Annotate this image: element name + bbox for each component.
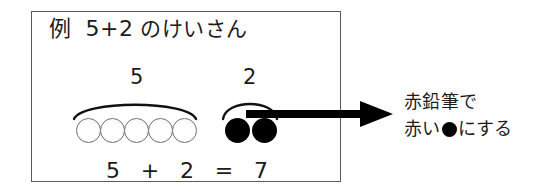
example-label: 例 xyxy=(49,18,72,40)
annotation-line-2-before: 赤い xyxy=(404,118,441,139)
right-arrow-icon xyxy=(246,100,394,128)
equation-equals-operator: = xyxy=(204,160,244,182)
open-circle xyxy=(124,118,149,143)
example-box: 例 5+2 のけいさん 5 2 5 xyxy=(31,11,341,182)
annotation-text: 赤鉛筆で 赤いにする xyxy=(404,88,513,142)
open-circle xyxy=(172,118,197,143)
equation-plus-operator: + xyxy=(130,160,170,182)
open-circle xyxy=(100,118,125,143)
equation-left-operand: 5 xyxy=(96,160,130,182)
equation-row: 5 + 2 = 7 xyxy=(32,160,342,182)
open-circle xyxy=(76,118,101,143)
group-caption-addend-one: 5 xyxy=(130,67,143,88)
annotation-line-1: 赤鉛筆で xyxy=(404,88,513,115)
group-caption-addend-two: 2 xyxy=(243,67,256,88)
worksheet-figure: 例 5+2 のけいさん 5 2 5 xyxy=(0,0,555,196)
annotation-line-2: 赤いにする xyxy=(404,115,513,142)
example-header: 例 5+2 のけいさん xyxy=(49,18,248,40)
open-circle xyxy=(148,118,173,143)
open-circle-group xyxy=(76,118,196,143)
header-tail-text: のけいさん xyxy=(140,19,248,40)
annotation-line-2-after: にする xyxy=(458,118,513,139)
group-arc-wide-icon xyxy=(72,98,198,120)
equation-result: 7 xyxy=(244,160,278,182)
filled-dot-icon xyxy=(442,122,457,137)
header-expression: 5+2 xyxy=(86,18,134,40)
equation-right-operand: 2 xyxy=(170,160,204,182)
